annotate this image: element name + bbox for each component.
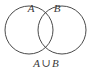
venn-diagram-figure: A B A∪B — [0, 0, 92, 72]
caption-left-operand: A — [32, 57, 40, 69]
union-caption: A∪B — [32, 57, 59, 69]
venn-diagram-canvas: A B A∪B — [0, 0, 92, 72]
caption-right-operand: B — [52, 57, 59, 69]
set-a-label: A — [27, 2, 35, 14]
union-operator-glyph: ∪ — [41, 57, 50, 69]
set-b-label: B — [54, 2, 61, 14]
